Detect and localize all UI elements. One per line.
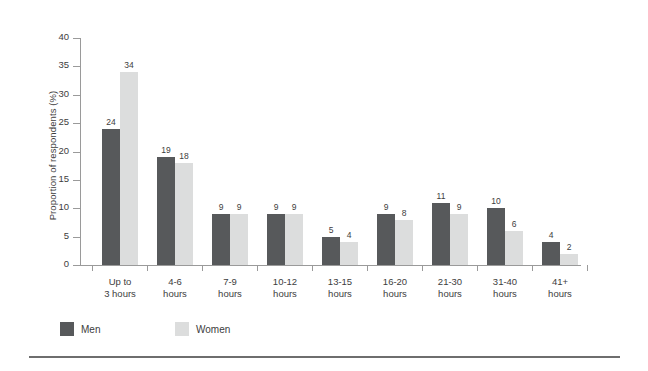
category-label-line: 41+ <box>520 276 600 288</box>
bar-men: 24 <box>102 129 120 265</box>
bar-women: 9 <box>285 214 303 265</box>
bar-value-label: 9 <box>237 202 242 212</box>
bar-men: 10 <box>487 208 505 265</box>
x-tick <box>202 265 203 271</box>
x-tick <box>532 265 533 271</box>
bar-men: 5 <box>322 237 340 265</box>
bar-women: 18 <box>175 163 193 265</box>
bar-value-label: 11 <box>437 191 446 201</box>
legend-swatch-men <box>60 322 74 336</box>
bar-group: 54 <box>322 38 358 265</box>
bar-group: 99 <box>267 38 303 265</box>
y-tick-20: 20 <box>73 152 80 153</box>
y-tick-label: 40 <box>58 31 69 42</box>
bar-value-label: 9 <box>457 202 462 212</box>
bar-men: 11 <box>432 203 450 265</box>
x-tick <box>257 265 258 271</box>
bar-value-label: 9 <box>384 202 389 212</box>
y-tick-label: 0 <box>64 258 69 269</box>
bar-value-label: 4 <box>347 230 352 240</box>
bar-value-label: 18 <box>179 151 188 161</box>
bar-women: 9 <box>450 214 468 265</box>
legend-swatch-women <box>175 322 189 336</box>
bottom-divider <box>29 356 620 358</box>
bar-women: 2 <box>560 254 578 265</box>
bar-group: 1918 <box>157 38 193 265</box>
bar-women: 4 <box>340 242 358 265</box>
bar-men: 19 <box>157 157 175 265</box>
bar-group: 106 <box>487 38 523 265</box>
bar-women: 9 <box>230 214 248 265</box>
y-tick-label: 10 <box>58 201 69 212</box>
x-tick <box>367 265 368 271</box>
y-tick-0: 0 <box>73 265 80 266</box>
y-tick-label: 30 <box>58 88 69 99</box>
bar-men: 4 <box>542 242 560 265</box>
bar-value-label: 4 <box>549 230 554 240</box>
y-tick-15: 15 <box>73 180 80 181</box>
bar-value-label: 8 <box>402 208 407 218</box>
bar-value-label: 9 <box>292 202 297 212</box>
y-tick-label: 15 <box>58 173 69 184</box>
legend-item-women: Women <box>175 322 230 336</box>
bar-value-label: 5 <box>329 225 334 235</box>
x-tick <box>312 265 313 271</box>
bar-value-label: 2 <box>567 242 572 252</box>
y-tick-label: 5 <box>64 230 69 241</box>
bar-group: 2434 <box>102 38 138 265</box>
bar-group: 99 <box>212 38 248 265</box>
y-tick-30: 30 <box>73 95 80 96</box>
bar-value-label: 34 <box>124 60 133 70</box>
bar-value-label: 6 <box>512 219 517 229</box>
x-tick <box>422 265 423 271</box>
legend-label-women: Women <box>196 324 230 335</box>
legend-label-men: Men <box>81 324 100 335</box>
y-tick-35: 35 <box>73 66 80 67</box>
y-tick-10: 10 <box>73 208 80 209</box>
plot-area: 0510152025303540 24341918999954981191064… <box>80 38 580 265</box>
x-tick <box>147 265 148 271</box>
x-tick <box>477 265 478 271</box>
y-axis-title: Proportion of respondents (%) <box>47 41 58 271</box>
category-label: 41+hours <box>520 276 600 300</box>
bar-group: 42 <box>542 38 578 265</box>
bar-women: 34 <box>120 72 138 265</box>
bar-chart-figure: Proportion of respondents (%) 0510152025… <box>0 0 648 371</box>
x-axis-line <box>80 265 581 266</box>
y-tick-5: 5 <box>73 237 80 238</box>
y-tick-25: 25 <box>73 123 80 124</box>
bar-men: 9 <box>377 214 395 265</box>
bar-value-label: 9 <box>274 202 279 212</box>
legend-item-men: Men <box>60 322 100 336</box>
bar-women: 6 <box>505 231 523 265</box>
x-tick <box>92 265 93 271</box>
category-label-line: hours <box>520 288 600 300</box>
y-axis-line <box>80 38 81 266</box>
bar-men: 9 <box>212 214 230 265</box>
y-tick-label: 25 <box>58 116 69 127</box>
bar-group: 98 <box>377 38 413 265</box>
y-tick-40: 40 <box>73 38 80 39</box>
y-tick-label: 20 <box>58 145 69 156</box>
bar-women: 8 <box>395 220 413 265</box>
y-tick-label: 35 <box>58 59 69 70</box>
bar-value-label: 19 <box>161 145 170 155</box>
bar-group: 119 <box>432 38 468 265</box>
bar-men: 9 <box>267 214 285 265</box>
x-tick <box>587 265 588 271</box>
bar-value-label: 9 <box>219 202 224 212</box>
bar-value-label: 10 <box>491 196 500 206</box>
bar-value-label: 24 <box>106 117 115 127</box>
